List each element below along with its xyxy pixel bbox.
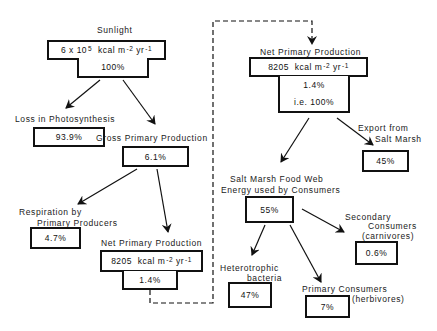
unit-exp: -1 [185, 256, 192, 263]
primary-percent-box: 7% [305, 295, 350, 318]
unit-exp: -2 [166, 256, 173, 263]
export-label-1: Export from [358, 123, 409, 133]
arrow-npp-to-foodweb [281, 118, 309, 162]
sunlight-value: 6 x 10 [61, 45, 87, 55]
respiration-label-1: Respiration by [19, 207, 82, 217]
gpp-percent-box: 6.1% [122, 146, 189, 167]
secondary-percent-box: 0.6% [355, 241, 398, 265]
npp-right-label: Net Primary Production [260, 47, 361, 57]
unit-exp: -2 [323, 62, 330, 69]
unit: yr [176, 256, 184, 266]
npp-right-percent: 1.4% [303, 80, 324, 90]
npp-right-percent-box: 1.4% i.e. 100% [278, 76, 350, 113]
energy-flow-diagram: Sunlight 6 x 105 kcal m-2 yr-1 100% Loss… [0, 0, 437, 331]
sunlight-label: Sunlight [97, 25, 133, 35]
export-percent-box: 45% [362, 150, 409, 172]
gpp-label: Gross Primary Production [96, 133, 208, 143]
npp-left-label: Net Primary Production [101, 238, 202, 248]
unit: kcal m [138, 256, 166, 266]
loss-label: Loss in Photosynthesis [15, 114, 115, 124]
sunlight-percent-box: 100% [77, 58, 149, 78]
sunlight-value-box: 6 x 105 kcal m-2 yr-1 [47, 40, 166, 60]
npp-left-percent-box: 1.4% [122, 271, 178, 290]
foodweb-percent-box: 55% [245, 196, 294, 223]
export-label-2: Salt Marsh [375, 134, 422, 144]
arrow-foodweb-to-primary [290, 225, 321, 282]
unit: yr [333, 62, 341, 72]
foodweb-label-1: Salt Marsh Food Web [230, 174, 323, 184]
unit-exp: -1 [342, 62, 349, 69]
foodweb-label-2: Energy used by Consumers [221, 185, 340, 195]
unit: kcal m [98, 45, 126, 55]
arrow-sunlight-to-loss [66, 80, 100, 108]
npp-left-value-box: 8205 kcal m-2 yr-1 [100, 250, 203, 272]
bacteria-percent-box: 47% [228, 282, 272, 308]
arrow-gpp-to-npp [157, 169, 168, 232]
unit: yr [136, 45, 144, 55]
arrow-foodweb-to-bacteria [252, 225, 265, 255]
npp-right-value-box: 8205 kcal m-2 yr-1 [249, 57, 368, 77]
arrow-sunlight-to-gpp [123, 80, 155, 124]
bacteria-label-1: Heterotrophic [220, 263, 279, 273]
secondary-label-2: Consumers [368, 221, 417, 231]
secondary-label-3: (carnivores) [362, 231, 414, 241]
arrow-gpp-to-respiration [78, 169, 137, 204]
unit: kcal m [295, 62, 323, 72]
sunlight-exp: 5 [88, 45, 92, 52]
loss-percent-box: 93.9% [33, 127, 105, 147]
arrow-foodweb-to-secondary [302, 209, 344, 232]
unit-exp: -2 [127, 45, 134, 52]
npp-value: 8205 [268, 62, 289, 72]
npp-right-percent-note: i.e. 100% [294, 97, 334, 107]
unit-exp: -1 [145, 45, 152, 52]
primary-label-2: (herbivores) [352, 294, 405, 304]
primary-label-1: Primary Consumers [302, 284, 387, 294]
respiration-percent-box: 4.7% [30, 227, 81, 249]
npp-value: 8205 [111, 256, 132, 266]
